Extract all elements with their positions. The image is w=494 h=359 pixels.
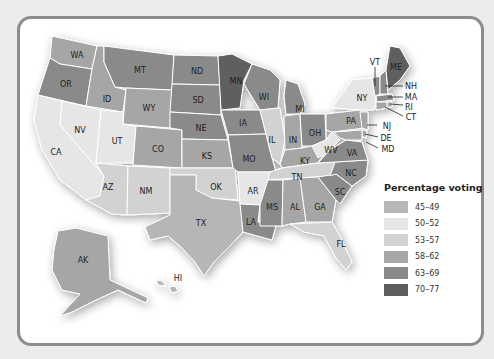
legend-swatch xyxy=(384,267,408,279)
state-CT[interactable] xyxy=(376,102,387,110)
state-AK[interactable] xyxy=(52,228,148,316)
state-label-NY: NY xyxy=(357,94,368,103)
state-label-ID: ID xyxy=(103,95,112,104)
state-label-TN: TN xyxy=(291,173,303,182)
legend-label: 50–52 xyxy=(415,219,439,228)
state-label-ND: ND xyxy=(191,67,203,76)
state-label-LA: LA xyxy=(246,218,257,227)
us-choropleth-map: WAORCANVIDMTWYUTAZNMCONDSDNEKSOKTXMNIAMO… xyxy=(0,0,494,359)
state-WI[interactable] xyxy=(244,64,280,110)
state-label-NJ: NJ xyxy=(383,122,391,131)
state-label-IN: IN xyxy=(289,136,297,145)
legend-swatch xyxy=(384,284,408,296)
state-label-WV: WV xyxy=(324,146,338,155)
state-HI[interactable] xyxy=(169,286,178,293)
legend-swatch xyxy=(384,201,408,213)
state-label-MI: MI xyxy=(295,105,304,114)
legend-label: 58–62 xyxy=(415,252,439,261)
state-label-WY: WY xyxy=(143,104,156,113)
legend-swatch xyxy=(384,218,408,230)
state-label-ME: ME xyxy=(390,63,402,72)
state-label-MD: MD xyxy=(381,145,394,154)
legend-label: 70–77 xyxy=(415,285,439,294)
state-label-AZ: AZ xyxy=(103,183,114,192)
state-label-NV: NV xyxy=(74,126,86,135)
state-label-NE: NE xyxy=(195,124,206,133)
state-label-MO: MO xyxy=(242,155,255,164)
legend-item: 45–49 xyxy=(384,199,484,216)
state-MA[interactable] xyxy=(376,94,394,102)
state-label-HI: HI xyxy=(174,274,182,283)
state-label-KS: KS xyxy=(202,152,212,161)
legend-label: 53–57 xyxy=(415,236,439,245)
state-label-NH: NH xyxy=(405,82,417,91)
state-label-MN: MN xyxy=(230,77,243,86)
state-label-TX: TX xyxy=(195,219,207,228)
state-label-MA: MA xyxy=(405,93,418,102)
state-label-OR: OR xyxy=(60,80,72,89)
legend-item: 63–69 xyxy=(384,265,484,282)
legend-item: 58–62 xyxy=(384,249,484,266)
state-label-MS: MS xyxy=(266,203,278,212)
state-label-AL: AL xyxy=(290,203,300,212)
state-label-OK: OK xyxy=(210,183,222,192)
state-label-WA: WA xyxy=(71,51,84,60)
state-label-VT: VT xyxy=(370,58,380,67)
legend-swatch xyxy=(384,234,408,246)
state-label-CA: CA xyxy=(50,148,62,157)
state-label-VA: VA xyxy=(347,149,358,158)
state-label-AR: AR xyxy=(247,187,258,196)
state-label-IL: IL xyxy=(269,136,276,145)
legend-title: Percentage voting xyxy=(384,182,484,193)
state-label-GA: GA xyxy=(314,203,326,212)
state-label-KY: KY xyxy=(300,157,310,166)
state-RI[interactable] xyxy=(387,102,392,107)
state-PA[interactable] xyxy=(326,110,364,132)
state-HI-island[interactable] xyxy=(156,280,166,286)
state-label-UT: UT xyxy=(112,137,123,146)
state-label-MT: MT xyxy=(134,66,146,75)
legend: Percentage voting 45–4950–5253–5758–6263… xyxy=(384,182,484,298)
state-IN[interactable] xyxy=(284,114,302,150)
state-label-OH: OH xyxy=(309,129,321,138)
state-NY[interactable] xyxy=(332,78,376,110)
state-label-NM: NM xyxy=(140,187,153,196)
legend-swatch xyxy=(384,251,408,263)
legend-item: 53–57 xyxy=(384,232,484,249)
legend-label: 45–49 xyxy=(415,203,439,212)
state-label-FL: FL xyxy=(336,240,346,249)
state-label-AK: AK xyxy=(78,256,89,265)
state-label-PA: PA xyxy=(346,117,356,126)
state-label-WI: WI xyxy=(259,93,269,102)
state-label-SC: SC xyxy=(335,188,346,197)
state-label-SD: SD xyxy=(192,96,203,105)
state-label-DE: DE xyxy=(380,134,391,143)
state-label-CT: CT xyxy=(406,113,417,122)
state-label-CO: CO xyxy=(152,145,164,154)
state-label-RI: RI xyxy=(405,103,413,112)
state-label-NC: NC xyxy=(345,169,357,178)
legend-item: 70–77 xyxy=(384,282,484,299)
state-label-IA: IA xyxy=(239,119,247,128)
legend-label: 63–69 xyxy=(415,269,439,278)
legend-item: 50–52 xyxy=(384,216,484,233)
